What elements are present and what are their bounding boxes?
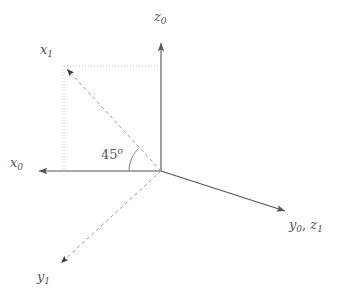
axis-label-x1-sub: 1 bbox=[47, 49, 53, 59]
axis-label-z0-sub: 0 bbox=[161, 16, 167, 26]
degree-icon: o bbox=[118, 146, 123, 156]
axis-label-y0-z1: y0, z1 bbox=[289, 218, 323, 231]
angle-label-45: 45o bbox=[101, 148, 123, 161]
axis-label-x0-sub: 0 bbox=[17, 162, 23, 172]
axis-label-x1: x1 bbox=[40, 43, 53, 56]
axis-label-y1-sub: 1 bbox=[44, 276, 50, 286]
axis-label-z0: z0 bbox=[154, 10, 167, 23]
axis-label-y1: y1 bbox=[37, 270, 50, 283]
axis-y0-z1 bbox=[161, 171, 285, 211]
axis-label-y0-sub: 0 bbox=[296, 224, 302, 234]
angle-label-value: 45 bbox=[101, 147, 118, 162]
coordinate-frame-diagram: z0 x1 x0 y0, z1 y1 45o bbox=[0, 0, 340, 298]
axis-y1 bbox=[61, 171, 161, 263]
axis-label-z1-sub: 1 bbox=[317, 224, 323, 234]
axis-label-x0: x0 bbox=[10, 156, 23, 169]
axis-label-z0-base: z bbox=[154, 9, 161, 24]
angle-arc-45 bbox=[129, 148, 139, 171]
